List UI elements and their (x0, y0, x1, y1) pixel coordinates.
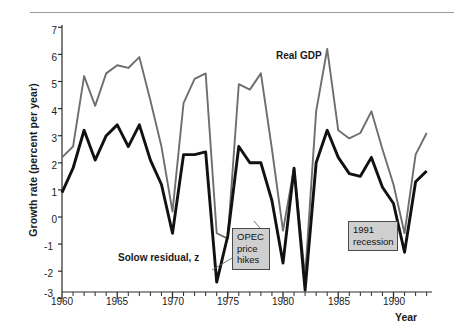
recession-line-2: recession (353, 236, 393, 248)
figure-root: Growth rate (percent per year) Year 7 6 … (0, 0, 460, 330)
chart-plot-area (0, 0, 460, 330)
solow-label-text: Solow residual, z (118, 252, 199, 263)
opec-line-2: price (237, 243, 265, 255)
recession-line-1: 1991 (353, 224, 393, 236)
annotation-1991-recession: 1991 recession (348, 221, 398, 251)
series-label-solow-residual: Solow residual, z (118, 252, 199, 263)
series-label-real-gdp: Real GDP (276, 50, 322, 61)
opec-line-3: hikes (237, 254, 265, 266)
opec-line-1: OPEC (237, 231, 265, 243)
annotation-opec-price-hikes: OPEC price hikes (232, 228, 270, 270)
x-tick-marks (62, 292, 427, 299)
